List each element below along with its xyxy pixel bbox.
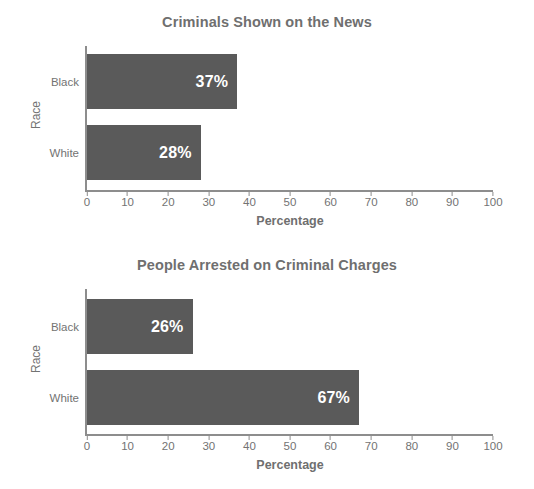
category-label: Black (51, 76, 79, 88)
chart-title: Criminals Shown on the News (0, 14, 534, 30)
tick-label: 60 (324, 197, 337, 209)
category-label: Black (51, 321, 79, 333)
plot-area: Black 26% White 67% (87, 289, 493, 436)
chart-criminals-shown-on-the-news: Criminals Shown on the News Race Black 3… (0, 0, 534, 244)
bar-value-label: 37% (196, 74, 229, 90)
tick-label: 10 (121, 441, 134, 453)
bar-row: Black 26% (87, 299, 493, 354)
x-axis-ticks: 0 10 20 30 40 50 60 70 80 90 100 (87, 436, 493, 456)
tick-label: 80 (405, 441, 418, 453)
tick-label: 70 (365, 197, 378, 209)
tick-label: 30 (202, 197, 215, 209)
tick-label: 30 (202, 441, 215, 453)
chart-people-arrested-on-criminal-charges: People Arrested on Criminal Charges Race… (0, 244, 534, 489)
bar-value-label: 28% (159, 145, 192, 161)
tick-label: 50 (284, 441, 297, 453)
tick-label: 20 (162, 441, 175, 453)
bar[interactable]: 67% (87, 370, 359, 425)
tick-label: 40 (243, 197, 256, 209)
tick-label: 20 (162, 197, 175, 209)
y-axis-label: Race (29, 329, 43, 389)
y-axis-label: Race (29, 85, 43, 145)
bar-row: White 67% (87, 370, 493, 425)
tick-label: 10 (121, 197, 134, 209)
bar[interactable]: 26% (87, 299, 193, 354)
tick-label: 60 (324, 441, 337, 453)
tick-label: 70 (365, 441, 378, 453)
x-axis-label: Percentage (87, 214, 493, 228)
bar[interactable]: 37% (87, 54, 237, 109)
plot-area: Black 37% White 28% (87, 46, 493, 192)
tick-label: 80 (405, 197, 418, 209)
tick-label: 90 (446, 441, 459, 453)
tick-label: 100 (483, 441, 502, 453)
x-axis-label: Percentage (87, 458, 493, 472)
category-label: White (50, 392, 79, 404)
tick-label: 50 (284, 197, 297, 209)
tick-label: 90 (446, 197, 459, 209)
tick-label: 0 (84, 197, 90, 209)
chart-title: People Arrested on Criminal Charges (0, 257, 534, 273)
bar-row: Black 37% (87, 54, 493, 109)
tick-label: 40 (243, 441, 256, 453)
bar-value-label: 26% (151, 319, 184, 335)
x-axis-ticks: 0 10 20 30 40 50 60 70 80 90 100 (87, 192, 493, 212)
bar[interactable]: 28% (87, 125, 201, 180)
bar-value-label: 67% (317, 390, 350, 406)
category-label: White (50, 147, 79, 159)
tick-label: 0 (84, 441, 90, 453)
tick-label: 100 (483, 197, 502, 209)
bar-row: White 28% (87, 125, 493, 180)
